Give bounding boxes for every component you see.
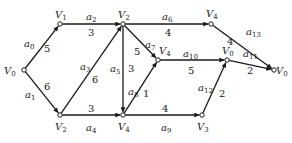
edge-name-a3: a3 bbox=[80, 61, 90, 74]
edge-weight-a6: 4 bbox=[165, 27, 171, 38]
node-label-v2: V2 bbox=[118, 9, 130, 22]
node-label-v1: V1 bbox=[55, 9, 67, 22]
edge-weight-a4: 3 bbox=[88, 103, 94, 114]
node-label-v0: V0 bbox=[4, 65, 16, 78]
edge-name-a11: a11 bbox=[243, 48, 258, 61]
node-v1-n1 bbox=[58, 22, 62, 26]
node-v4-n8 bbox=[121, 113, 125, 117]
node-label-v2: V2 bbox=[55, 121, 67, 134]
edge-weight-a0: 5 bbox=[44, 43, 50, 54]
edge-name-a0: a0 bbox=[24, 38, 34, 51]
node-v4-n3 bbox=[209, 22, 213, 26]
node-label-v0: V0 bbox=[276, 65, 288, 78]
node-v2-n7 bbox=[58, 113, 62, 117]
node-label-v4: V4 bbox=[118, 121, 130, 134]
edges-layer bbox=[25, 24, 271, 115]
edge-weight-a10: 5 bbox=[188, 65, 194, 76]
edge-name-a1: a1 bbox=[25, 89, 35, 102]
edge-weight-a1: 6 bbox=[44, 81, 50, 92]
edge-weight-a12: 2 bbox=[219, 88, 225, 99]
nodes-layer bbox=[22, 22, 276, 117]
aoe-network-diagram: a05a16a23a36a43a53a64a75a81a94a105a112a1… bbox=[0, 0, 292, 143]
edge-weight-a5: 3 bbox=[128, 63, 134, 74]
node-label-v4: V4 bbox=[206, 8, 218, 21]
node-v3-n9 bbox=[200, 113, 204, 117]
node-label-v3: V3 bbox=[197, 121, 209, 134]
edge-name-a9: a9 bbox=[161, 122, 171, 135]
edge-name-a13: a13 bbox=[246, 26, 261, 39]
edge-name-a12: a12 bbox=[198, 82, 213, 95]
edge-weight-a9: 4 bbox=[162, 103, 168, 114]
edge-weight-a3: 6 bbox=[92, 74, 98, 85]
edge-weight-a11: 2 bbox=[247, 65, 253, 76]
labels-layer: a05a16a23a36a43a53a64a75a81a94a105a112a1… bbox=[4, 8, 288, 135]
edge-weight-a8: 1 bbox=[143, 88, 149, 99]
node-label-v4: V4 bbox=[159, 45, 171, 58]
node-v0-n0 bbox=[22, 68, 26, 72]
node-v2-n2 bbox=[121, 22, 125, 26]
edge-name-a7: a7 bbox=[145, 39, 155, 52]
node-v4-n4 bbox=[156, 58, 160, 62]
edge-name-a6: a6 bbox=[162, 11, 173, 24]
edge-name-a10: a10 bbox=[183, 48, 198, 61]
edge-name-a5: a5 bbox=[110, 63, 120, 76]
edge-name-a8: a8 bbox=[128, 86, 138, 99]
edge-name-a4: a4 bbox=[86, 122, 97, 135]
edge-weight-a7: 5 bbox=[134, 46, 140, 57]
edge-name-a2: a2 bbox=[86, 11, 96, 24]
edge-weight-a2: 3 bbox=[88, 27, 94, 38]
node-v0-n5 bbox=[225, 58, 229, 62]
